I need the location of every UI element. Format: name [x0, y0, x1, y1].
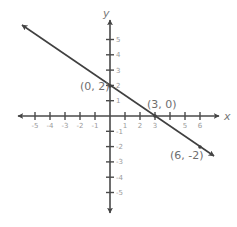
coordinate-plane: -5-4-3-2-112356 54321-1-2-3-4-5 x y (0, … — [0, 0, 237, 227]
x-tick-label: -5 — [32, 122, 39, 130]
x-tick-label: 1 — [123, 122, 127, 130]
point-label-6-neg2: (6, -2) — [170, 149, 204, 162]
y-tick-label: -1 — [116, 128, 123, 136]
x-tick-label: -2 — [77, 122, 84, 130]
x-tick-label: 6 — [198, 122, 203, 130]
point-3-0 — [153, 114, 157, 118]
x-tick-label: 2 — [138, 122, 142, 130]
y-tick-label: -2 — [116, 143, 123, 151]
y-tick-label: 1 — [116, 97, 120, 105]
x-tick-label: 5 — [183, 122, 187, 130]
x-tick-label: -4 — [47, 122, 55, 130]
y-tick-label: 5 — [116, 36, 120, 44]
y-tick-label: -5 — [116, 189, 123, 197]
y-tick-label: -4 — [116, 174, 124, 182]
y-axis-label: y — [102, 7, 110, 20]
x-tick-label: -1 — [92, 122, 99, 130]
x-axis-label: x — [223, 110, 231, 123]
y-tick-label: 4 — [116, 51, 121, 59]
y-tick-label: 3 — [116, 67, 120, 75]
graphed-line — [22, 25, 214, 156]
x-tick-label: -3 — [62, 122, 69, 130]
point-label-0-2: (0, 2) — [80, 80, 110, 93]
y-tick-label: -3 — [116, 158, 123, 166]
x-tick-label: 3 — [153, 122, 157, 130]
point-label-3-0: (3, 0) — [147, 98, 177, 111]
